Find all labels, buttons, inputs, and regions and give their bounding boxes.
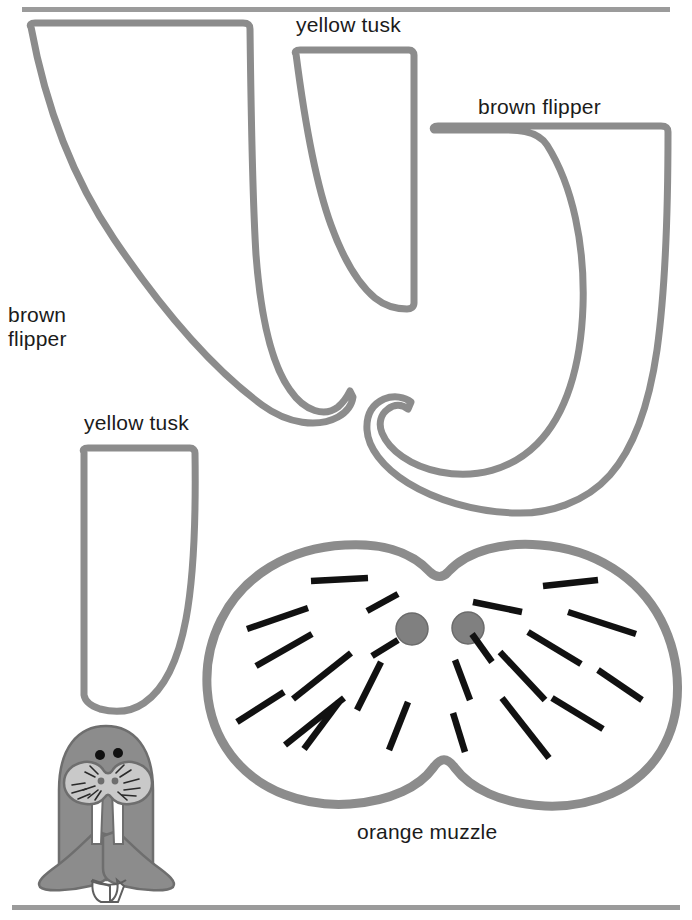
label-yellow-tusk-bottom: yellow tusk [84,411,189,435]
muzzle-nostril-left [396,613,428,645]
label-brown-flipper-left: brown flipper [8,303,67,352]
piece-muzzle[interactable] [207,544,678,806]
piece-tusk-bottom[interactable] [83,448,195,711]
label-orange-muzzle: orange muzzle [357,820,497,844]
tusk-top-outline [295,50,414,309]
mini-walrus-eye-left [95,750,105,760]
piece-tusk-top[interactable] [295,50,414,309]
top-divider [22,7,670,12]
mini-walrus-eye-right [113,748,123,758]
mini-nostril-left [98,778,105,785]
pattern-sheet [0,0,692,920]
template-page: yellow tusk brown flipper brown flipper … [0,0,692,920]
mini-walrus-preview [39,726,174,902]
mini-nostril-right [112,778,119,785]
label-yellow-tusk-top: yellow tusk [296,13,401,37]
label-brown-flipper-right: brown flipper [478,95,601,119]
whisker [311,578,368,581]
tusk-bottom-outline [83,448,195,711]
bottom-divider [12,905,680,910]
